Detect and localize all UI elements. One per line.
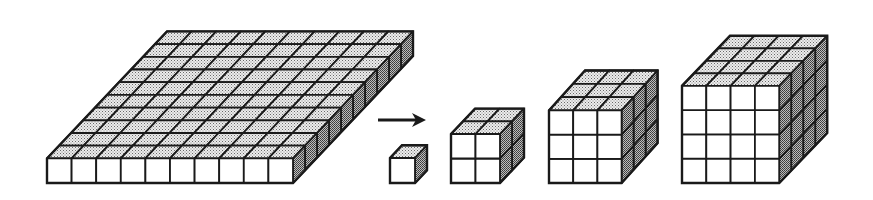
unit-cube-diagram <box>0 0 873 200</box>
front-face <box>597 159 621 183</box>
slab <box>47 31 413 183</box>
diagram-canvas <box>0 0 873 200</box>
front-face <box>573 110 597 134</box>
front-face <box>755 110 779 134</box>
front-face <box>706 134 730 158</box>
cube-2 <box>451 109 524 183</box>
cube-3 <box>549 71 658 184</box>
front-face <box>573 135 597 159</box>
flat-slab-10x10 <box>47 31 413 183</box>
front-face <box>47 158 72 183</box>
front-face <box>549 110 573 134</box>
front-face <box>731 110 755 134</box>
front-face <box>682 134 706 158</box>
front-face <box>390 158 415 183</box>
front-face <box>682 110 706 134</box>
front-face <box>573 159 597 183</box>
front-face <box>755 159 779 183</box>
cube-1 <box>390 145 427 183</box>
front-face <box>597 110 621 134</box>
front-face <box>682 159 706 183</box>
front-face <box>72 158 97 183</box>
front-face <box>549 135 573 159</box>
cube-sequence <box>390 36 827 183</box>
front-face <box>121 158 146 183</box>
front-face <box>706 86 730 110</box>
front-face <box>476 159 501 184</box>
front-face <box>597 135 621 159</box>
front-face <box>731 159 755 183</box>
front-face <box>755 86 779 110</box>
cube-4 <box>682 36 827 183</box>
front-face <box>195 158 220 183</box>
front-face <box>170 158 195 183</box>
front-face <box>476 134 501 159</box>
front-face <box>145 158 170 183</box>
front-face <box>706 159 730 183</box>
front-face <box>706 110 730 134</box>
front-face <box>268 158 293 183</box>
front-face <box>731 134 755 158</box>
front-face <box>219 158 244 183</box>
front-face <box>731 86 755 110</box>
front-face <box>549 159 573 183</box>
arrow-right-icon <box>378 113 426 127</box>
front-face <box>755 134 779 158</box>
front-face <box>682 86 706 110</box>
front-face <box>451 159 476 184</box>
front-face <box>451 134 476 159</box>
front-face <box>244 158 269 183</box>
front-face <box>96 158 121 183</box>
